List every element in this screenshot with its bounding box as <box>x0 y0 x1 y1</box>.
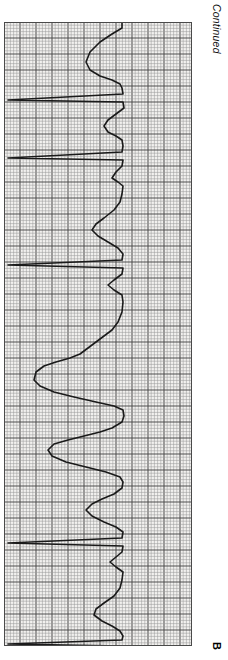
continued-note-text: Continued <box>211 4 223 54</box>
ecg-rhythm-strip <box>4 22 192 646</box>
ecg-waveform-trace <box>4 22 192 646</box>
panel-label-text: B <box>211 642 223 650</box>
continued-note: Continued <box>208 4 226 90</box>
panel-label: B <box>209 638 225 654</box>
figure-page: Continued B <box>0 0 228 660</box>
